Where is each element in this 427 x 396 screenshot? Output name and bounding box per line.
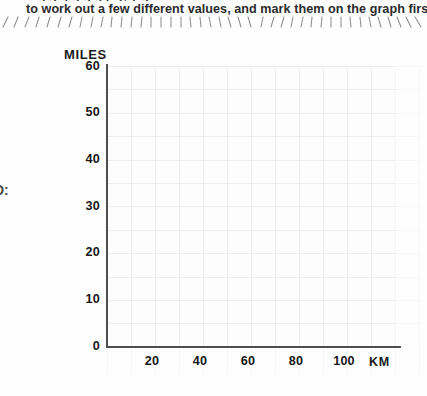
conversion-graph: MILES KM 60 50 40 30 20 10 0 20 40 60 80… <box>0 0 427 396</box>
x-tick-label: 60 <box>228 354 268 368</box>
x-tick-label: 40 <box>180 354 220 368</box>
plot-area-grid <box>107 66 395 347</box>
x-axis-title: KM <box>369 355 390 369</box>
x-tick-label: 20 <box>132 354 172 368</box>
y-tick-label: 0 <box>64 339 100 353</box>
y-tick-label: 40 <box>64 152 100 166</box>
x-axis-line <box>106 346 401 348</box>
x-tick-label: 100 <box>324 354 364 368</box>
x-tick-label: 80 <box>276 354 316 368</box>
worksheet-page: g g g g g g p y, y g to work out a few d… <box>0 0 427 396</box>
plot-grid-overflow-right <box>395 66 423 347</box>
y-axis-line <box>106 64 108 348</box>
y-axis-tick-labels: 60 50 40 30 20 10 0 <box>60 0 100 396</box>
y-tick-label: 10 <box>64 292 100 306</box>
y-tick-label: 30 <box>64 199 100 213</box>
y-tick-label: 50 <box>64 105 100 119</box>
y-tick-label: 20 <box>64 245 100 259</box>
y-tick-label: 60 <box>64 59 100 73</box>
